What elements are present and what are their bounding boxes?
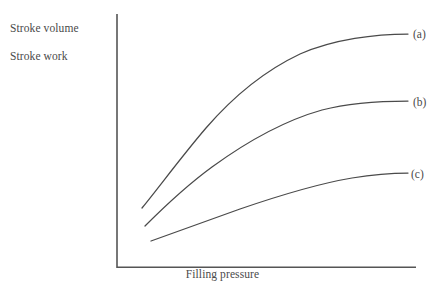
curve-label-c: (c) (411, 168, 424, 181)
curve-a (142, 34, 408, 208)
curve-label-b: (b) (413, 96, 426, 109)
curve-label-a: (a) (413, 28, 426, 41)
plot-area (0, 0, 445, 292)
figure-canvas: Stroke volume Stroke work (a) (b) (c) Fi… (0, 0, 445, 292)
curve-c (151, 173, 408, 241)
x-axis-title: Filling pressure (0, 268, 445, 281)
curve-b (145, 101, 408, 226)
